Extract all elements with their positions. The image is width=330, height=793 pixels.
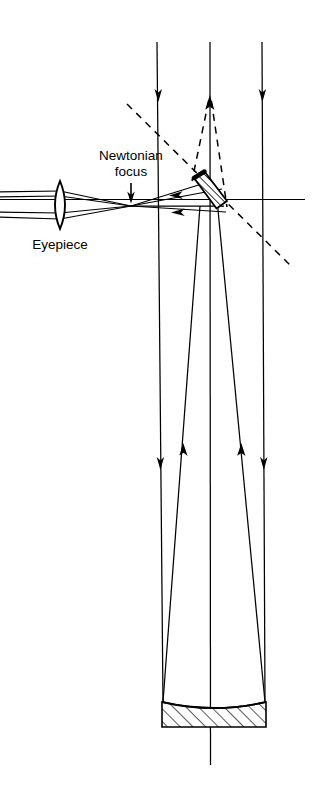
newtonian-focus-label-line2: focus [115,164,148,179]
ray-direction-arrows [155,89,268,470]
primary-mirror [162,702,266,727]
eyepiece-lens-body [55,181,65,229]
converging-arrow-left [179,443,187,456]
emergent-ray-3 [0,212,60,213]
tube-right-wall [262,42,265,703]
diverging-ray-upper [60,191,131,206]
diverging-ray-mid-upper [60,196,131,206]
reflected-arrow-lower [171,209,185,217]
newtonian-focus-label-line1: Newtonian [99,148,163,163]
newtonian-focus-annotation: Newtonian focus [99,148,163,204]
emergent-ray-1 [0,191,60,192]
virtual-cone-left-dashed [192,101,209,181]
emergent-ray-4 [0,217,60,219]
emergent-ray-2 [0,196,60,197]
ray-diagram-svg: Newtonian focus Eyepiece [0,0,330,793]
tube-left-wall [157,42,163,703]
eyepiece-lens [55,181,65,229]
newtonian-telescope-figure: Newtonian focus Eyepiece [0,0,330,793]
eyepiece-label: Eyepiece [32,237,88,252]
incoming-arrow-left-top [155,89,162,102]
